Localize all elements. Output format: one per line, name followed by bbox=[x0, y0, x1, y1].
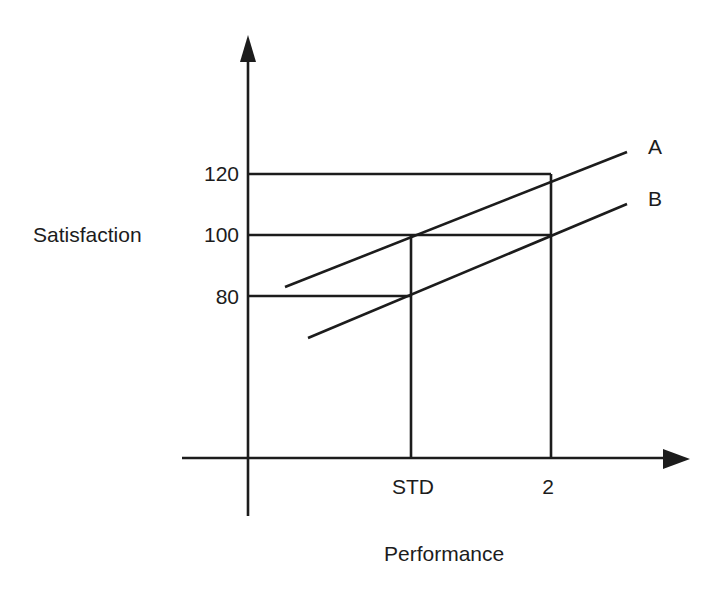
x-axis-label: Performance bbox=[384, 543, 504, 564]
line-a bbox=[285, 152, 627, 287]
diagram-canvas bbox=[0, 0, 714, 592]
line-b bbox=[308, 204, 627, 338]
y-tick-120: 120 bbox=[179, 163, 239, 184]
y-axis-arrow-icon bbox=[240, 35, 256, 62]
line-a-label: A bbox=[648, 136, 662, 157]
x-tick-2: 2 bbox=[518, 476, 578, 497]
y-axis-label: Satisfaction bbox=[33, 224, 142, 245]
x-axis-arrow-icon bbox=[663, 449, 690, 469]
y-tick-80: 80 bbox=[179, 286, 239, 307]
y-tick-100: 100 bbox=[179, 224, 239, 245]
line-b-label: B bbox=[648, 188, 662, 209]
x-tick-std: STD bbox=[383, 476, 443, 497]
